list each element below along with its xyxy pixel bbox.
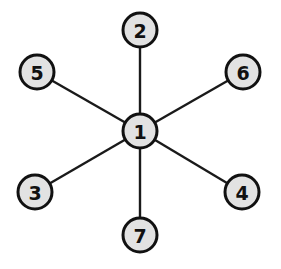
node-5: 5 (20, 55, 54, 89)
node-label-7: 7 (133, 225, 146, 247)
node-label-3: 3 (28, 182, 41, 204)
node-3: 3 (18, 175, 52, 209)
node-1: 1 (123, 114, 157, 148)
node-label-5: 5 (30, 62, 43, 84)
node-2: 2 (123, 13, 157, 47)
node-4: 4 (225, 175, 259, 209)
node-label-1: 1 (133, 121, 146, 143)
node-7: 7 (123, 218, 157, 252)
node-label-4: 4 (235, 182, 248, 204)
node-label-2: 2 (133, 20, 146, 42)
node-label-6: 6 (236, 62, 249, 84)
node-6: 6 (226, 55, 260, 89)
star-graph-diagram: 1 2 3 4 5 6 7 (0, 0, 281, 269)
